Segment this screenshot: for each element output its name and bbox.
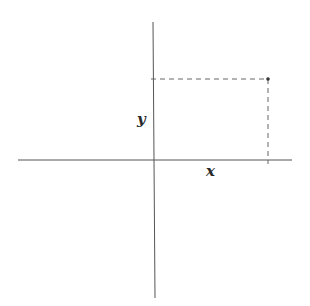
coordinate-diagram: y x [0,0,310,306]
y-label: y [136,110,147,128]
x-label: x [205,162,216,180]
point-marker [266,77,270,81]
